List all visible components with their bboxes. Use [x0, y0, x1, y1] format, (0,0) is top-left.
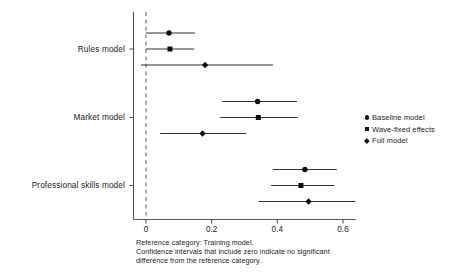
footnote-line-3: difference from the reference category. — [136, 256, 436, 265]
x-tick-label: 0.4 — [257, 224, 297, 234]
x-tick-label: 0.2 — [192, 224, 232, 234]
x-tick-label: 0.6 — [323, 224, 363, 234]
legend-item: Baseline model — [362, 112, 456, 124]
diamond-marker-icon — [362, 139, 372, 143]
legend-item: Wave-fixed effects — [362, 124, 456, 136]
point-estimate-square — [298, 183, 303, 188]
point-estimate-circle — [255, 99, 260, 104]
point-estimate-diamond — [202, 62, 208, 68]
legend-item-label: Baseline model — [372, 113, 425, 122]
forest-plot-figure: Rules modelMarket modelProfessional skil… — [0, 0, 458, 273]
point-estimate-diamond — [305, 198, 311, 204]
point-estimate-diamond — [199, 130, 205, 136]
legend: Baseline model Wave-fixed effects Full m… — [362, 112, 456, 147]
y-axis-label-rules-model: Rules model — [0, 44, 125, 54]
point-estimate-circle — [166, 30, 171, 35]
point-estimate-square — [256, 115, 261, 120]
point-estimate-circle — [302, 167, 307, 172]
legend-item: Full model — [362, 135, 456, 147]
square-marker-icon — [362, 127, 372, 131]
legend-item-label: Full model — [372, 136, 408, 145]
x-tick-label: 0 — [126, 224, 166, 234]
footnote-line-2: Confidence intervals that include zero i… — [136, 247, 436, 256]
y-axis-ticks — [130, 49, 134, 186]
circle-marker-icon — [362, 115, 372, 120]
confidence-interval-group — [141, 33, 355, 202]
y-axis-label-market-model: Market model — [0, 112, 125, 122]
point-estimate-square — [167, 47, 172, 52]
x-axis-ticks — [146, 220, 343, 224]
legend-item-label: Wave-fixed effects — [372, 125, 435, 134]
y-axis-label-professional-skills-model: Professional skills model — [0, 180, 125, 190]
footnote-line-1: Reference category: Training model. — [136, 238, 436, 247]
footnote: Reference category: Training model. Conf… — [136, 238, 436, 266]
